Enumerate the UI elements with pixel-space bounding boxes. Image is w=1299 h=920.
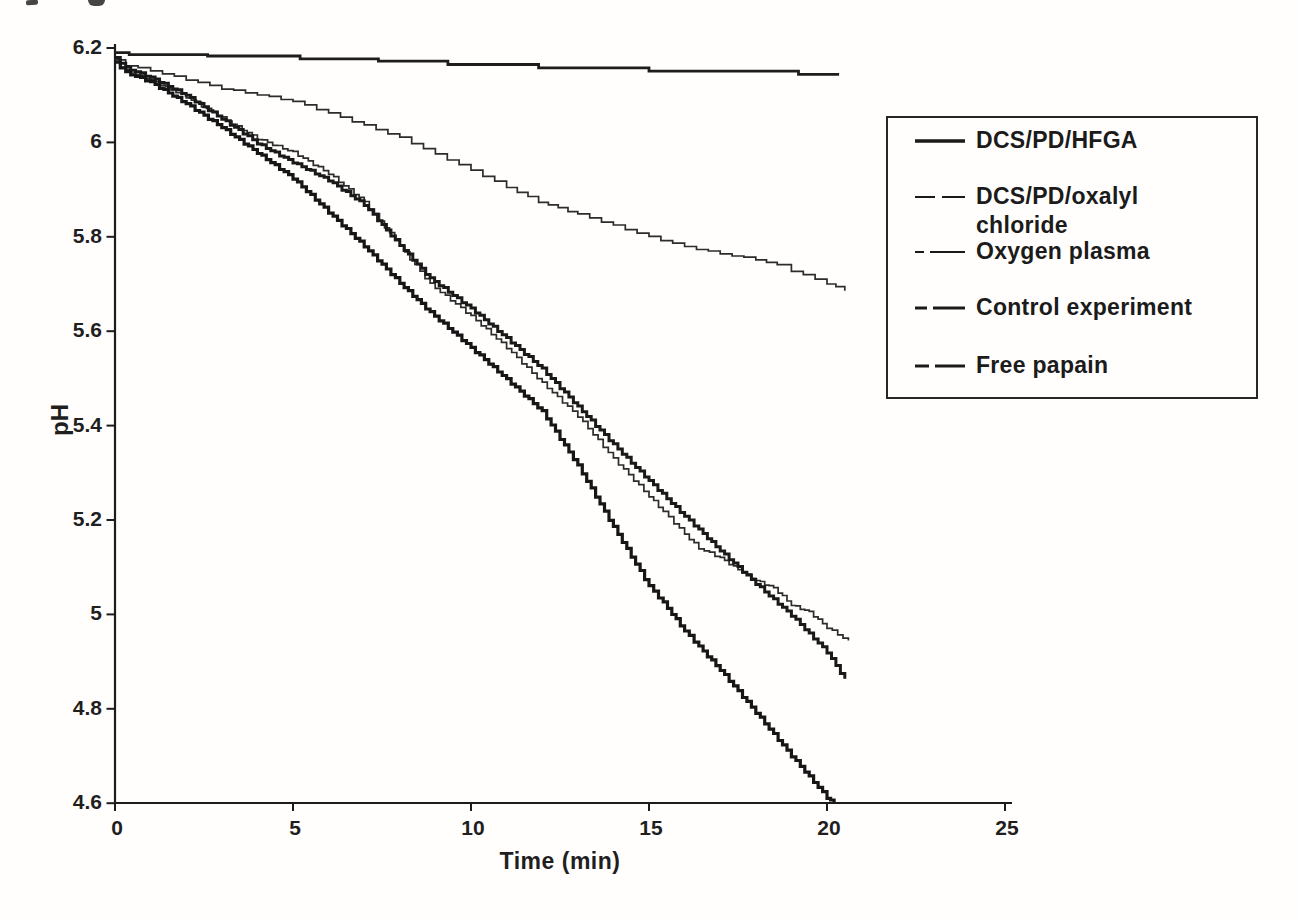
x-tick-label: 10 <box>443 816 503 840</box>
y-tick-label: 5.2 <box>38 507 102 531</box>
x-axis-title: Time (min) <box>478 848 642 875</box>
series-curve-dcs-pd-hfga <box>115 53 838 76</box>
x-tick-label: 20 <box>799 816 859 840</box>
legend-item-label: Free papain <box>976 351 1108 380</box>
legend-line-sample <box>914 126 966 155</box>
legend-line-sample <box>914 182 966 211</box>
legend-item: Control experiment <box>914 293 1192 322</box>
legend-item-label: Oxygen plasma <box>976 237 1150 266</box>
y-tick-label: 5.4 <box>38 413 102 437</box>
legend-item-label: DCS/PD/HFGA <box>976 126 1138 155</box>
series-curve-free-papain <box>115 62 834 803</box>
y-tick-label: 6.2 <box>38 35 102 59</box>
x-tick-label: 5 <box>265 816 325 840</box>
y-tick-label: 6 <box>38 129 102 153</box>
x-tick-label: 0 <box>87 816 147 840</box>
y-tick-label: 4.6 <box>38 790 102 814</box>
y-tick-label: 5.8 <box>38 224 102 248</box>
y-tick-label: 4.8 <box>38 696 102 720</box>
legend-line-sample <box>914 351 966 380</box>
x-tick-label: 25 <box>977 816 1037 840</box>
legend-item: DCS/PD/oxalylchloride <box>914 182 1138 240</box>
figure-ph-vs-time-chart: pH Time (min) DCS/PD/HFGADCS/PD/oxalylch… <box>0 0 1299 920</box>
legend-line-sample <box>914 293 966 322</box>
x-tick-label: 15 <box>621 816 681 840</box>
axes-lines <box>115 44 1012 803</box>
legend-item-label: DCS/PD/oxalylchloride <box>976 182 1138 240</box>
legend-line-sample <box>914 237 966 266</box>
legend-item: Free papain <box>914 351 1108 380</box>
series-curve-dcs-pd-oxalyl-chloride <box>115 60 845 291</box>
series-curve-oxygen-plasma <box>115 62 848 640</box>
legend-item: Oxygen plasma <box>914 237 1150 266</box>
legend-item-label: Control experiment <box>976 293 1192 322</box>
legend-item: DCS/PD/HFGA <box>914 126 1138 155</box>
series-curve-control-experiment <box>115 57 845 678</box>
y-tick-label: 5.6 <box>38 318 102 342</box>
y-tick-label: 5 <box>38 601 102 625</box>
legend-box: DCS/PD/HFGADCS/PD/oxalylchlorideOxygen p… <box>886 116 1258 399</box>
